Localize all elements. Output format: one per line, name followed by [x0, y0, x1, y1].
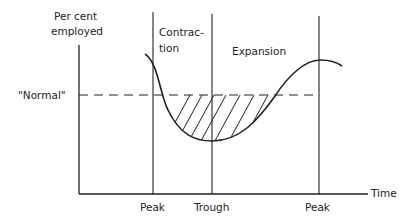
trough-label: Trough	[193, 201, 229, 213]
hatched-area	[160, 95, 282, 150]
y-axis-label-line2: employed	[51, 25, 103, 37]
normal-label: "Normal"	[18, 89, 66, 101]
employment-curve	[145, 54, 342, 141]
contraction-label-2: tion	[159, 42, 179, 54]
time-label: Time	[370, 187, 397, 199]
contraction-label-1: Contrac-	[159, 26, 204, 38]
peak-label-2: Peak	[305, 201, 331, 213]
y-axis-label-line1: Per cent	[54, 10, 97, 22]
peak-label-1: Peak	[140, 201, 166, 213]
expansion-label: Expansion	[232, 45, 286, 57]
business-cycle-diagram: Per cent employed "Normal" Contrac- tion…	[0, 0, 406, 222]
